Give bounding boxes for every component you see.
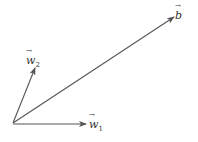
vector-w1-subscript: 1 (98, 125, 102, 133)
vector-b-symbol: b (175, 10, 182, 21)
vector-b-arrow (13, 17, 174, 123)
vector-b-label: b (175, 10, 182, 21)
vector-w1-symbol: w (89, 119, 98, 130)
vector-w2-subscript: 2 (35, 61, 39, 69)
vector-w2-arrow (13, 68, 35, 123)
vector-diagram: b w2 w1 (0, 0, 198, 142)
vector-w2-label: w2 (26, 55, 40, 69)
vector-w2-symbol: w (26, 55, 35, 66)
vector-w1-label: w1 (89, 119, 103, 133)
